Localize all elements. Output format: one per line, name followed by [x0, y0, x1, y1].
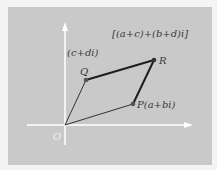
point-r — [152, 58, 157, 63]
q-label: Q — [80, 66, 88, 77]
point-p — [131, 102, 136, 107]
complex-plane-diagram: [(a+c)+(b+d)i] (c+di) Q R P(a+bi) O — [0, 0, 217, 170]
sum-expression-label: [(a+c)+(b+d)i] — [112, 28, 188, 39]
real-axis-arrow-icon — [184, 122, 193, 128]
edge-qr — [86, 60, 154, 80]
edge-pr — [133, 60, 154, 104]
edge-op — [65, 104, 133, 125]
q-value-label: (c+di) — [67, 47, 98, 58]
r-label: R — [158, 55, 167, 66]
p-label: P(a+bi) — [136, 99, 176, 110]
point-q — [84, 78, 89, 83]
edge-oq — [65, 80, 86, 125]
origin-label: O — [53, 131, 61, 142]
imaginary-axis-arrow-icon — [62, 22, 68, 31]
